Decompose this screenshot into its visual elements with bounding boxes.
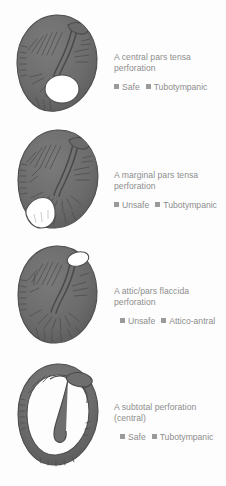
caption-title: A marginal pars tensa perforation <box>114 170 226 192</box>
tag-safety: Safe <box>114 82 140 93</box>
eardrum-svg-3 <box>10 240 106 356</box>
tag-disease-type-label: Tubotympanic <box>154 82 208 92</box>
square-bullet-icon <box>161 318 166 323</box>
panel-attic-pars-flaccida: A attic/pars flaccida perforation Unsafe… <box>0 240 226 358</box>
panel-subtotal-central: A subtotal perforation (central) SafeTub… <box>0 357 226 475</box>
tag-disease-type-label: Tubotympanic <box>160 432 214 442</box>
malleus-handle <box>54 379 68 442</box>
eardrum-svg-2 <box>10 124 106 240</box>
tag-safety-label: Unsafe <box>128 316 155 326</box>
caption-title-line-1: A subtotal perforation <box>114 402 196 412</box>
eardrum-illustration-subtotal-central <box>10 357 106 473</box>
square-bullet-icon <box>114 202 119 207</box>
tag-disease-type: Tubotympanic <box>152 432 214 443</box>
caption-title-line-2: (central) <box>114 413 146 423</box>
tag-safety: Safe <box>120 432 146 443</box>
perforation-types-figure: A central pars tensa perforation SafeTub… <box>0 0 226 486</box>
caption-title-line-1: A attic/pars flaccida <box>114 286 189 296</box>
caption-title-line-2: perforation <box>114 63 156 73</box>
caption-title-line-2: perforation <box>114 181 156 191</box>
square-bullet-icon <box>152 434 157 439</box>
caption-central-pars-tensa: A central pars tensa perforation SafeTub… <box>114 52 226 93</box>
classification-tags: SafeTubotympanic <box>114 82 226 93</box>
caption-attic-pars-flaccida: A attic/pars flaccida perforation Unsafe… <box>114 286 226 327</box>
caption-title: A attic/pars flaccida perforation <box>114 286 226 308</box>
caption-marginal-pars-tensa: A marginal pars tensa perforation Unsafe… <box>114 170 226 211</box>
tag-safety-label: Safe <box>128 432 146 442</box>
eardrum-illustration-marginal-pars-tensa <box>10 124 106 240</box>
caption-title-line-2: perforation <box>114 297 156 307</box>
panel-marginal-pars-tensa: A marginal pars tensa perforation Unsafe… <box>0 124 226 242</box>
tag-disease-type-label: Attico-antral <box>169 316 215 326</box>
caption-subtotal-central: A subtotal perforation (central) SafeTub… <box>114 402 226 443</box>
square-bullet-icon <box>114 84 119 89</box>
eardrum-illustration-attic-pars-flaccida <box>10 240 106 356</box>
eardrum-svg-1 <box>10 8 106 124</box>
classification-tags: UnsafeTubotympanic <box>114 200 226 211</box>
square-bullet-icon <box>120 318 125 323</box>
tag-disease-type: Attico-antral <box>161 316 215 327</box>
tag-disease-type: Tubotympanic <box>146 82 208 93</box>
caption-title-line-1: A central pars tensa <box>114 52 191 62</box>
panel-central-pars-tensa: A central pars tensa perforation SafeTub… <box>0 8 226 126</box>
anterior-fold <box>50 376 67 379</box>
tag-safety: Unsafe <box>114 200 149 211</box>
perforation-hole <box>45 75 79 103</box>
caption-title-line-1: A marginal pars tensa <box>114 170 198 180</box>
caption-title: A subtotal perforation (central) <box>114 402 226 424</box>
classification-tags: UnsafeAttico-antral <box>120 316 226 327</box>
square-bullet-icon <box>120 434 125 439</box>
tag-disease-type-label: Tubotympanic <box>163 200 217 210</box>
eardrum-illustration-central-pars-tensa <box>10 8 106 124</box>
tag-safety-label: Safe <box>122 82 140 92</box>
lateral-process <box>66 373 92 388</box>
tag-safety-label: Unsafe <box>122 200 149 210</box>
tag-safety: Unsafe <box>120 316 155 327</box>
eardrum-svg-4 <box>10 357 106 473</box>
classification-tags: SafeTubotympanic <box>120 432 226 443</box>
square-bullet-icon <box>155 202 160 207</box>
tag-disease-type: Tubotympanic <box>155 200 217 211</box>
square-bullet-icon <box>146 84 151 89</box>
caption-title: A central pars tensa perforation <box>114 52 226 74</box>
